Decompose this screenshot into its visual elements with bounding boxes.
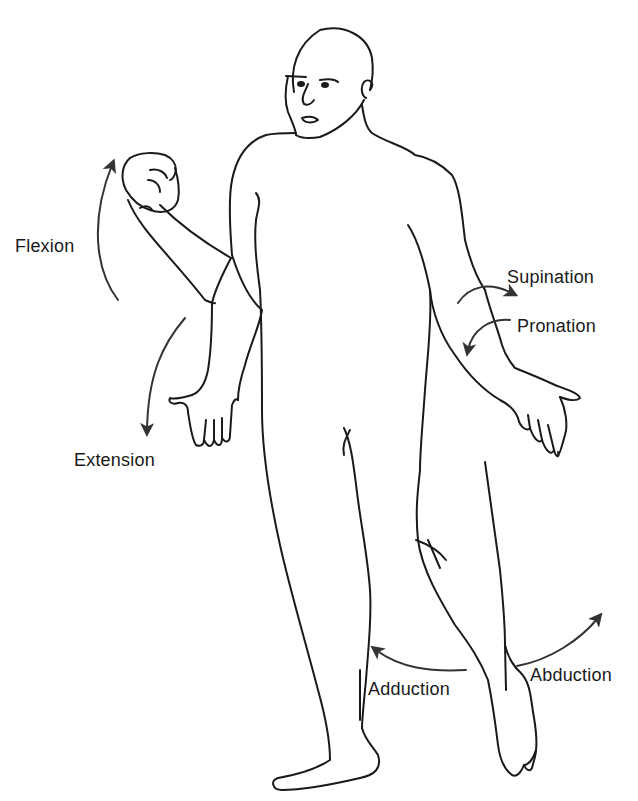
torso	[230, 105, 485, 290]
label-supination: Supination	[507, 267, 594, 288]
label-adduction: Adduction	[368, 679, 450, 700]
left-arm	[430, 290, 580, 456]
flexion-arrow	[98, 165, 118, 300]
extended-arm	[169, 255, 262, 446]
extension-arrow	[147, 318, 185, 430]
abduction-arrow	[517, 618, 598, 666]
label-flexion: Flexion	[15, 236, 74, 257]
flexed-arm	[123, 153, 231, 303]
adduction-arrow	[376, 650, 466, 670]
legs	[260, 290, 537, 790]
label-extension: Extension	[74, 450, 155, 471]
label-abduction: Abduction	[530, 665, 612, 686]
pronation-arrow	[468, 320, 510, 350]
movement-arrows	[98, 165, 598, 670]
head	[286, 28, 373, 138]
label-pronation: Pronation	[517, 316, 596, 337]
